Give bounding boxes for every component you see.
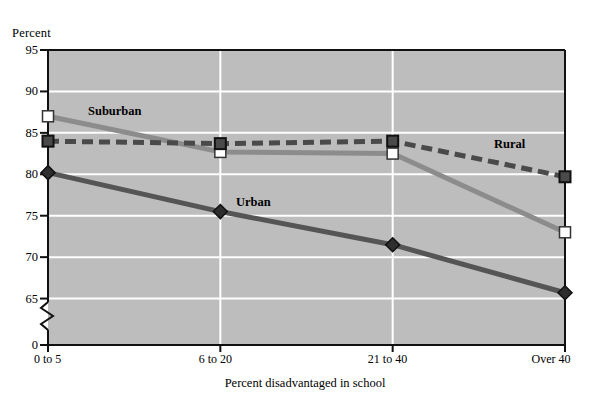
y-tick-label: 75 — [4, 208, 38, 223]
y-tick-label: 90 — [4, 84, 38, 99]
y-tick-label: 95 — [4, 43, 38, 58]
x-tick-label: 0 to 5 — [34, 352, 61, 367]
chart-canvas — [0, 0, 610, 407]
chart-container: Percent 959085807570650 0 to 56 to 2021 … — [0, 0, 610, 407]
y-tick-label: 85 — [4, 125, 38, 140]
series-label-suburban: Suburban — [88, 104, 142, 119]
y-tick-label: 65 — [4, 291, 38, 306]
x-tick-label: 21 to 40 — [368, 352, 407, 367]
series-label-urban: Urban — [236, 195, 271, 210]
y-tick-label: 80 — [4, 167, 38, 182]
series-label-rural: Rural — [494, 137, 525, 152]
y-tick-label: 70 — [4, 250, 38, 265]
x-tick-label: 6 to 20 — [199, 352, 232, 367]
x-tick-label: Over 40 — [532, 352, 571, 367]
y-tick-label: 0 — [4, 338, 38, 353]
x-axis-title: Percent disadvantaged in school — [0, 376, 610, 391]
